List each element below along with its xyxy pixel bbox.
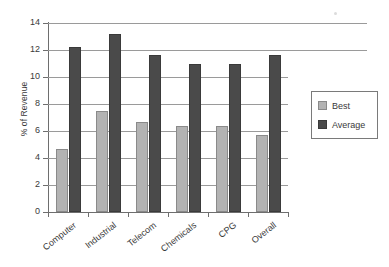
bar-best-overall	[256, 135, 268, 212]
x-category-label-industrial: Industrial	[73, 220, 119, 259]
bar-average-chemicals	[189, 64, 201, 213]
legend-swatch-average-icon	[318, 120, 327, 129]
x-tick-mark	[168, 212, 169, 217]
x-tick-mark	[288, 212, 289, 217]
legend-label-average: Average	[332, 120, 365, 130]
x-category-label-chemicals: Chemicals	[153, 220, 199, 259]
x-tick-mark	[128, 212, 129, 217]
bar-best-telecom	[136, 122, 148, 212]
x-category-label-computer: Computer	[33, 220, 79, 259]
y-tick-label: 4	[14, 152, 40, 162]
x-tick-mark	[248, 212, 249, 217]
y-tick-label: 14	[14, 17, 40, 27]
bar-average-telecom	[149, 55, 161, 212]
legend-label-best: Best	[332, 101, 350, 111]
scan-artifact-speck	[334, 12, 337, 15]
x-category-label-overall: Overall	[233, 220, 279, 259]
bar-best-chemicals	[176, 126, 188, 212]
y-tick-label: 0	[14, 206, 40, 216]
bar-best-computer	[56, 149, 68, 212]
bar-chart: % of Revenue 02468101214 ComputerIndustr…	[0, 0, 389, 267]
legend-swatch-best-icon	[318, 101, 327, 110]
legend-item-average[interactable]: Average	[318, 118, 365, 131]
y-tick-label: 8	[14, 98, 40, 108]
y-tick-label: 12	[14, 44, 40, 54]
bar-average-cpg	[229, 64, 241, 213]
bar-average-overall	[269, 55, 281, 212]
bar-best-industrial	[96, 111, 108, 212]
legend-item-best[interactable]: Best	[318, 99, 350, 112]
x-category-label-cpg: CPG	[193, 220, 239, 259]
y-tick-label: 10	[14, 71, 40, 81]
plot-area	[48, 23, 288, 212]
y-tick-label: 2	[14, 179, 40, 189]
x-category-label-telecom: Telecom	[113, 220, 159, 259]
bar-average-industrial	[109, 34, 121, 212]
x-tick-mark	[88, 212, 89, 217]
chart-legend: Best Average	[311, 91, 378, 139]
x-tick-mark	[208, 212, 209, 217]
x-tick-mark	[48, 212, 49, 217]
bar-best-cpg	[216, 126, 228, 212]
bar-average-computer	[69, 47, 81, 212]
y-tick-label: 6	[14, 125, 40, 135]
